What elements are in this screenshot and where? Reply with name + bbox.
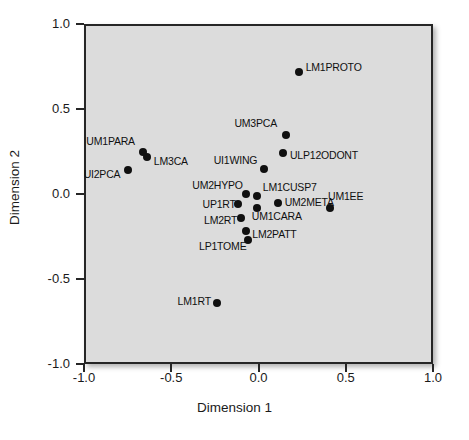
data-point <box>282 131 290 139</box>
data-point <box>274 199 282 207</box>
data-point <box>253 192 261 200</box>
data-point <box>326 204 334 212</box>
x-tick-label: 0.0 <box>229 370 289 385</box>
x-tick-label: 1.0 <box>403 370 463 385</box>
data-point-label: UM1PARA <box>86 135 135 147</box>
data-point-label: LM2RT <box>204 214 237 226</box>
data-point <box>143 153 151 161</box>
data-point-label: ULP12ODONT <box>290 149 358 161</box>
x-tick-label: -0.5 <box>141 370 201 385</box>
y-tick-label: 1.0 <box>10 16 70 31</box>
x-axis-title: Dimension 1 <box>0 400 469 415</box>
data-point <box>213 299 221 307</box>
data-point-label: LM3CA <box>154 155 188 167</box>
x-tick-label: -1.0 <box>54 370 114 385</box>
data-point <box>237 214 245 222</box>
data-point-label: UM1CARA <box>252 210 302 222</box>
data-point <box>295 68 303 76</box>
y-tick-mark <box>76 108 84 110</box>
data-point-label: UM2HYPO <box>192 179 243 191</box>
data-point-label: UI1WING <box>214 154 258 166</box>
data-point-label: UM3PCA <box>234 117 277 129</box>
y-tick-label: -1.0 <box>10 356 70 371</box>
data-point-label: LP1TOME <box>199 240 246 252</box>
scatter-plot: 1.00.50.0-0.5-1.0 -1.0-0.50.00.51.0 LM1P… <box>0 0 469 440</box>
data-point-label: LM1CUSP7 <box>263 181 317 193</box>
y-tick-mark <box>76 278 84 280</box>
y-tick-mark <box>76 193 84 195</box>
data-point <box>124 166 132 174</box>
data-point-label: LM1PROTO <box>306 61 362 73</box>
data-point-label: LM1RT <box>178 295 211 307</box>
data-point-label: UM1EE <box>328 190 363 202</box>
data-point-label: UP1RT <box>203 198 236 210</box>
y-axis-title: Dimension 2 <box>7 88 22 288</box>
data-point-label: LM2PATT <box>252 228 296 240</box>
x-tick-label: 0.5 <box>316 370 376 385</box>
y-tick-mark <box>76 23 84 25</box>
data-point-label: UI2PCA <box>84 168 121 180</box>
data-point <box>260 165 268 173</box>
